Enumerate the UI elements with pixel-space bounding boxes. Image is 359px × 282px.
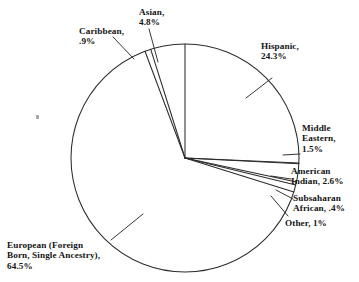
pie-chart-figure: Asian, 4.8% Caribbean, .9% Hispanic, 24.… — [0, 0, 359, 282]
scan-artifact-speck — [36, 115, 39, 119]
pie-slices — [71, 44, 299, 272]
slice-label-other: Other, 1% — [285, 218, 327, 228]
slice-label-caribbean: Caribbean, .9% — [79, 26, 124, 47]
slice-label-asian: Asian, 4.8% — [139, 7, 164, 28]
slice-label-european: European (Foreign Born, Single Ancestry)… — [7, 240, 100, 271]
slice-label-hispanic: Hispanic, 24.3% — [261, 41, 299, 62]
slice-label-american-indian: American Indian, 2.6% — [291, 166, 344, 187]
slice-label-subsaharan-african: Subsaharan African, .4% — [293, 193, 345, 214]
slice-label-middle-eastern: Middle Eastern, 1.5% — [302, 123, 336, 154]
